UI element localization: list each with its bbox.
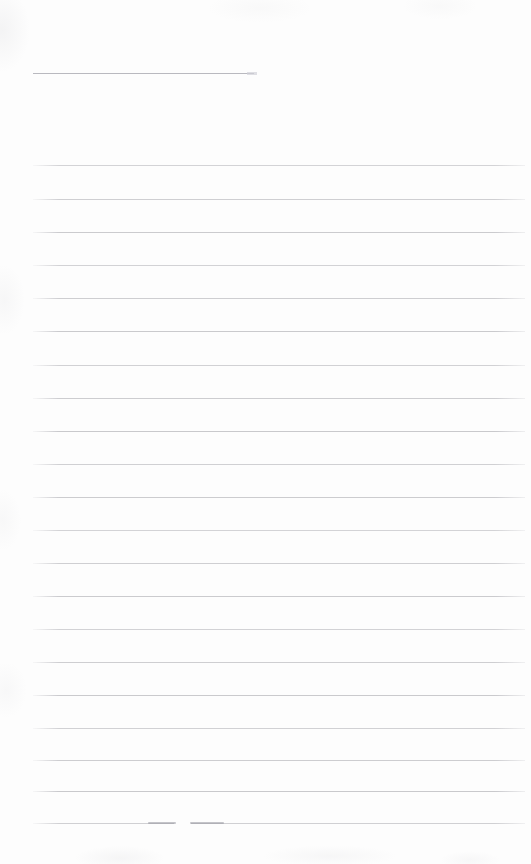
ruled-line xyxy=(33,199,525,200)
paper-grain-texture xyxy=(0,0,531,864)
ruled-line xyxy=(33,760,525,761)
ink-mark xyxy=(190,822,224,824)
ruled-line xyxy=(33,398,525,399)
ruled-line xyxy=(33,464,525,465)
ruled-line xyxy=(33,695,525,696)
ruled-line xyxy=(33,791,525,792)
ruled-line xyxy=(33,563,525,564)
scanned-page xyxy=(0,0,531,864)
ruled-line xyxy=(33,265,525,266)
ruled-line xyxy=(33,165,525,166)
ruled-line xyxy=(33,298,525,299)
ruled-line xyxy=(33,728,525,729)
ruled-line xyxy=(33,365,525,366)
rule-break-gap xyxy=(174,822,191,825)
ruled-line xyxy=(33,497,525,498)
ink-mark xyxy=(148,822,176,824)
ruled-line xyxy=(33,823,525,824)
title-blank-rule xyxy=(33,73,254,74)
ruled-line xyxy=(33,530,525,531)
ruled-line xyxy=(33,331,525,332)
ruled-line xyxy=(33,431,525,432)
ruled-line xyxy=(33,596,525,597)
ruled-line xyxy=(33,629,525,630)
ruled-line xyxy=(33,232,525,233)
ruled-line xyxy=(33,662,525,663)
